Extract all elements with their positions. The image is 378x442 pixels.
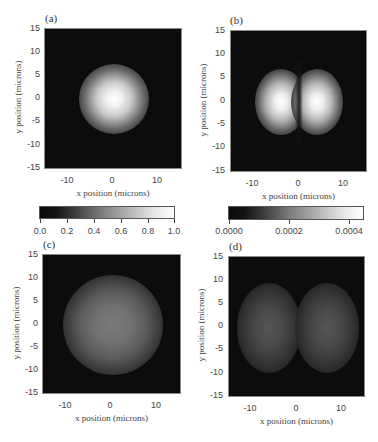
- ytick: -10: [22, 139, 40, 149]
- colorbar-a-tick-label: 1.0: [154, 226, 194, 236]
- xtick: 0: [286, 178, 310, 188]
- ytick: -10: [20, 364, 38, 374]
- center-node: [295, 61, 303, 143]
- colorbar-b-tick-label: 0.0002: [269, 226, 309, 236]
- colorbar-a: [39, 206, 175, 219]
- ytick: -15: [207, 165, 225, 175]
- right-broad-lobe: [295, 283, 359, 373]
- xtick: 10: [329, 403, 353, 413]
- ytick: 5: [20, 295, 38, 305]
- panel-c-ylabel: y position (microns): [11, 273, 21, 373]
- ytick: -10: [207, 141, 225, 151]
- ytick: 0: [22, 92, 40, 102]
- ytick: 15: [22, 23, 40, 33]
- left-broad-lobe: [237, 283, 301, 373]
- ytick: 10: [20, 272, 38, 282]
- ytick: -10: [205, 367, 223, 377]
- ytick: 0: [205, 320, 223, 330]
- ytick: 0: [20, 318, 38, 328]
- panel-b-label: (b): [230, 14, 243, 26]
- ytick: -5: [20, 341, 38, 351]
- panel-c-xlabel: x position (microns): [42, 413, 181, 423]
- ytick: -15: [205, 390, 223, 400]
- panel-c-heatmap: [42, 254, 181, 394]
- ytick: -5: [22, 115, 40, 125]
- xtick: -10: [55, 175, 79, 185]
- panel-b-xlabel: x position (microns): [230, 191, 367, 201]
- ytick: 5: [22, 69, 40, 79]
- panel-c-label: (c): [43, 238, 55, 250]
- xtick: 0: [284, 403, 308, 413]
- colorbar-b-tick-label: 0.0004: [329, 226, 369, 236]
- panel-a-label: (a): [45, 12, 57, 24]
- gaussian-spot: [79, 64, 149, 134]
- panel-a-xlabel: x position (microns): [44, 188, 182, 198]
- panel-d-xlabel: x position (microns): [228, 416, 365, 426]
- xtick: 0: [98, 400, 122, 410]
- xtick: -10: [240, 178, 264, 188]
- ytick: -15: [20, 387, 38, 397]
- ytick: -5: [205, 343, 223, 353]
- panel-b-ylabel: y position (microns): [198, 50, 208, 150]
- panel-a-heatmap: [44, 28, 182, 169]
- xtick: 10: [145, 175, 169, 185]
- panel-d-heatmap: [228, 256, 365, 397]
- panel-a-ylabel: y position (microns): [13, 47, 23, 147]
- ytick: -5: [207, 118, 225, 128]
- xtick: 10: [331, 178, 355, 188]
- xtick: -10: [238, 403, 262, 413]
- colorbar-b: [228, 206, 364, 220]
- colorbar-b-tick-label: 0.0000: [209, 226, 249, 236]
- panel-d-ylabel: y position (microns): [196, 275, 206, 375]
- ytick: 5: [205, 297, 223, 307]
- ytick: -15: [22, 162, 40, 172]
- xtick: 10: [144, 400, 168, 410]
- ytick: 15: [205, 251, 223, 261]
- ytick: 10: [22, 46, 40, 56]
- panel-d-label: (d): [229, 240, 242, 252]
- ytick: 5: [207, 71, 225, 81]
- broad-gaussian-spot: [63, 275, 163, 375]
- xtick: 0: [100, 175, 124, 185]
- ytick: 15: [20, 249, 38, 259]
- ytick: 10: [207, 48, 225, 58]
- ytick: 15: [207, 25, 225, 35]
- xtick: -10: [53, 400, 77, 410]
- panel-b-heatmap: [230, 30, 367, 172]
- ytick: 10: [205, 274, 223, 284]
- ytick: 0: [207, 95, 225, 105]
